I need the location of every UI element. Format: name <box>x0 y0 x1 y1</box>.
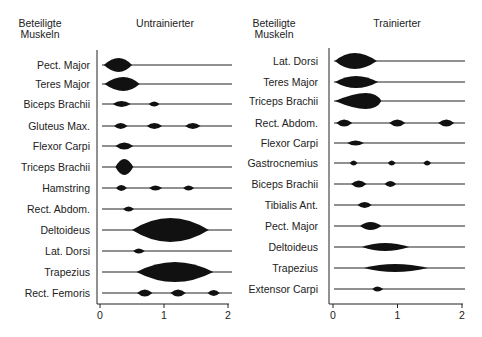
emg-activity-chart: BeteiligteMuskelnUntrainierter012Pect. M… <box>0 0 482 337</box>
muscle-row: Rect. Femoris <box>25 287 232 299</box>
muscle-label: Flexor Carpi <box>261 137 318 149</box>
muscle-row: Triceps Brachii <box>21 159 232 175</box>
activity-burst <box>123 207 134 212</box>
activity-burst <box>136 262 213 282</box>
muscle-label: Pect. Major <box>37 59 91 71</box>
muscle-label: Rect. Femoris <box>25 287 90 299</box>
activity-burst <box>115 143 133 150</box>
muscle-row: Teres Major <box>263 76 465 89</box>
muscle-row: Biceps Brachii <box>251 178 465 190</box>
muscle-label: Hamstring <box>42 182 90 194</box>
activity-burst <box>372 287 383 292</box>
muscle-row: Deltoideus <box>268 241 465 253</box>
activity-burst <box>170 290 185 297</box>
activity-burst <box>385 181 397 187</box>
activity-burst <box>104 77 139 91</box>
activity-burst <box>335 93 381 109</box>
x-tick-label: 2 <box>225 309 231 321</box>
x-tick-label: 0 <box>330 309 336 321</box>
muscle-row: Rect. Abdom. <box>27 203 232 215</box>
column-header: Muskeln <box>20 28 59 40</box>
x-tick-label: 1 <box>395 309 401 321</box>
activity-burst <box>208 290 220 296</box>
muscle-label: Teres Major <box>263 76 318 88</box>
activity-burst <box>132 218 209 242</box>
activity-burst <box>438 120 454 127</box>
muscle-label: Deltoideus <box>268 241 318 253</box>
activity-burst <box>133 249 145 254</box>
muscle-row: Pect. Major <box>37 58 232 72</box>
muscle-row: Teres Major <box>35 77 232 91</box>
activity-burst <box>336 120 352 127</box>
activity-burst <box>335 76 378 88</box>
x-tick-label: 2 <box>459 309 465 321</box>
activity-burst <box>358 202 372 208</box>
activity-burst <box>137 290 152 297</box>
muscle-row: Hamstring <box>42 182 232 194</box>
activity-burst <box>185 123 200 129</box>
activity-burst <box>388 161 396 166</box>
muscle-row: Lat. Dorsi <box>45 245 232 257</box>
activity-burst <box>147 123 162 129</box>
activity-burst <box>364 264 428 272</box>
muscle-row: Tibialis Ant. <box>265 199 465 211</box>
muscle-label: Lat. Dorsi <box>273 55 318 67</box>
muscle-label: Flexor Carpi <box>33 140 90 152</box>
activity-burst <box>360 222 381 230</box>
activity-burst <box>114 123 127 129</box>
muscle-label: Gastrocnemius <box>247 157 318 169</box>
muscle-row: Gastrocnemius <box>247 157 465 169</box>
muscle-row: Lat. Dorsi <box>273 53 465 69</box>
muscle-row: Biceps Brachii <box>23 98 232 110</box>
activity-burst <box>115 159 133 175</box>
activity-burst <box>149 102 160 107</box>
activity-burst <box>423 161 431 166</box>
activity-burst <box>104 58 132 72</box>
activity-burst <box>113 101 131 107</box>
muscle-row: Gluteus Max. <box>28 120 232 132</box>
muscle-row: Extensor Carpi <box>249 283 465 295</box>
muscle-label: Extensor Carpi <box>249 283 318 295</box>
muscle-label: Tibialis Ant. <box>265 199 318 211</box>
muscle-label: Rect. Abdom. <box>255 117 318 129</box>
activity-burst <box>389 120 405 127</box>
activity-burst <box>347 141 364 146</box>
activity-burst <box>350 161 358 166</box>
muscle-row: Trapezius <box>44 262 232 282</box>
muscle-row: Trapezius <box>272 262 465 274</box>
activity-burst <box>116 185 127 191</box>
muscle-row: Triceps Brachii <box>249 93 465 109</box>
activity-burst <box>351 181 366 188</box>
x-tick-label: 1 <box>161 309 167 321</box>
muscle-label: Deltoideus <box>40 224 90 236</box>
activity-burst <box>335 53 377 69</box>
muscle-label: Lat. Dorsi <box>45 245 90 257</box>
muscle-row: Rect. Abdom. <box>255 117 465 129</box>
muscle-label: Rect. Abdom. <box>27 203 90 215</box>
muscle-label: Biceps Brachii <box>251 178 318 190</box>
panel-untrainierter: BeteiligteMuskelnUntrainierter012Pect. M… <box>18 17 232 321</box>
activity-burst <box>149 186 162 191</box>
activity-burst <box>183 186 194 191</box>
panel-trainierter: BeteiligteMuskelnTrainierter012Lat. Dors… <box>247 17 465 321</box>
x-tick-label: 0 <box>97 309 103 321</box>
muscle-row: Pect. Major <box>265 220 465 232</box>
muscle-label: Pect. Major <box>265 220 319 232</box>
muscle-label: Triceps Brachii <box>249 95 318 107</box>
panel-title: Trainierter <box>373 17 421 29</box>
muscle-label: Trapezius <box>272 262 318 274</box>
muscle-label: Teres Major <box>35 78 90 90</box>
column-header: Muskeln <box>254 28 293 40</box>
muscle-label: Trapezius <box>44 266 90 278</box>
panel-title: Untrainierter <box>136 17 194 29</box>
muscle-row: Flexor Carpi <box>261 137 465 149</box>
activity-burst <box>362 243 409 251</box>
muscle-row: Flexor Carpi <box>33 140 232 152</box>
muscle-label: Biceps Brachii <box>23 98 90 110</box>
muscle-row: Deltoideus <box>40 218 232 242</box>
muscle-label: Triceps Brachii <box>21 161 90 173</box>
muscle-label: Gluteus Max. <box>28 120 90 132</box>
